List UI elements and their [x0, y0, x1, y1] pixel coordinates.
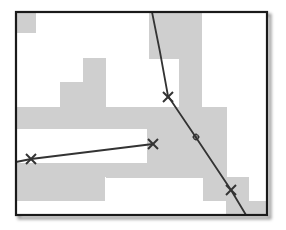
- grid-cell: [203, 177, 249, 201]
- grid-cell: [16, 12, 36, 33]
- grid-cell: [147, 129, 227, 177]
- grid-cell: [16, 177, 105, 201]
- grid-path-diagram: [0, 0, 286, 230]
- grid-cell: [16, 107, 227, 129]
- free-cell: [106, 178, 203, 201]
- grid-cell: [16, 163, 147, 177]
- grid-cell: [60, 82, 106, 107]
- grid-cell: [83, 58, 106, 82]
- grid-cell: [226, 201, 267, 215]
- grid-cell: [179, 59, 202, 107]
